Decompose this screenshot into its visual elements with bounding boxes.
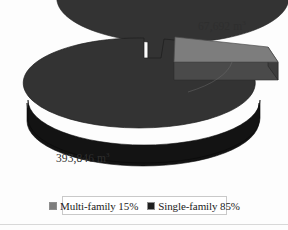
data-label-single-family-exponent: 3 [106, 151, 110, 159]
legend-item-single-family[interactable]: Single-family 85% [147, 200, 240, 212]
data-label-multi-family-exponent: 3 [242, 19, 246, 27]
data-label-multi-family: 67,692 m3 [198, 20, 246, 32]
pie-chart-figure: 67,692 m3 393,846 m3 Multi-family 15% Si… [0, 0, 288, 230]
pie-plot-area: 67,692 m3 393,846 m3 [0, 0, 288, 185]
legend-item-single-family-label: Single-family 85% [158, 200, 240, 212]
data-label-single-family: 393,846 m3 [56, 152, 110, 164]
chart-legend: Multi-family 15% Single-family 85% [62, 196, 227, 215]
legend-swatch-icon [147, 202, 155, 210]
legend-item-multi-family[interactable]: Multi-family 15% [49, 200, 138, 212]
legend-item-multi-family-label: Multi-family 15% [60, 200, 138, 212]
data-label-single-family-value: 393,846 m [56, 152, 106, 164]
figure-bottom-rule [0, 224, 288, 225]
legend-swatch-icon [49, 202, 57, 210]
data-label-multi-family-value: 67,692 m [198, 20, 242, 32]
